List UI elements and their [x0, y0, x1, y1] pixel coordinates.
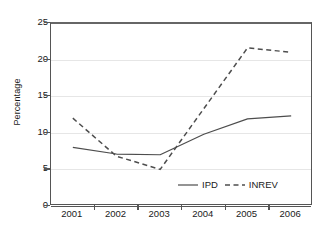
y-tick-label: 15	[8, 90, 48, 100]
x-tick-label: 2003	[136, 209, 182, 219]
y-tick-label: 5	[8, 163, 48, 173]
series-line-inrev	[73, 48, 291, 170]
y-tick-label: 0	[8, 200, 48, 210]
y-tick-label: 10	[8, 127, 48, 137]
legend-entry-inrev: INREV	[225, 180, 278, 190]
x-tick-label: 2004	[180, 209, 226, 219]
x-tick-label: 2005	[224, 209, 270, 219]
x-tick-label: 2002	[93, 209, 139, 219]
legend-swatch-dashed-icon	[225, 181, 245, 189]
y-tick-label: 25	[8, 17, 48, 27]
gridline	[51, 206, 311, 207]
series-line-ipd	[73, 116, 291, 155]
y-axis-title: Percentage	[12, 52, 22, 152]
chart-legend: IPDINREV	[178, 180, 278, 190]
x-tick-label: 2006	[267, 209, 313, 219]
legend-label: INREV	[249, 180, 278, 190]
x-tick-label: 2001	[49, 209, 95, 219]
legend-entry-ipd: IPD	[178, 180, 218, 190]
y-tick-label: 20	[8, 54, 48, 64]
legend-swatch-solid-icon	[178, 181, 198, 189]
line-chart: Percentage 0510152025 200120022003200420…	[0, 0, 323, 247]
y-tick-mark	[44, 205, 50, 206]
legend-label: IPD	[202, 180, 218, 190]
plot-area	[50, 22, 312, 205]
